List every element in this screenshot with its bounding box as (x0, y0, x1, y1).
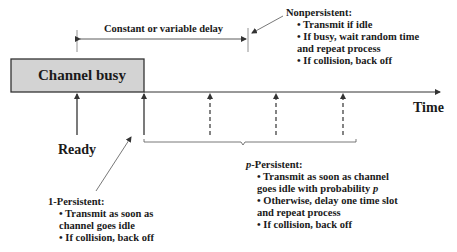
nonpersistent-item: • Transmit if idle (296, 19, 419, 31)
p-persistent-block: p-Persistent: • Transmit as soon as chan… (246, 159, 398, 231)
nonpersistent-item: • If busy, wait random time (296, 31, 419, 43)
nonpersistent-block: Nonpersistent: • Transmit if idle • If b… (286, 7, 419, 67)
p-persistent-item: • Transmit as soon as channel (256, 171, 398, 183)
nonpersistent-title: Nonpersistent: (286, 7, 419, 19)
p-persistent-item: • Otherwise, delay one time slot (256, 195, 398, 207)
one-persistent-item: channel goes idle (58, 220, 154, 232)
p-persistent-item: goes idle with probability p (256, 183, 398, 195)
p-persistent-item: and repeat process (256, 207, 398, 219)
ready-label: Ready (58, 143, 96, 157)
nonpersistent-pointer (252, 16, 283, 33)
p-persistent-brace (144, 139, 356, 145)
one-persistent-item: • If collision, back off (58, 232, 154, 244)
p-persistent-title: p-Persistent: (246, 159, 398, 171)
one-persistent-title: 1-Persistent: (48, 196, 154, 208)
one-persistent-item: • Transmit as soon as (58, 208, 154, 220)
nonpersistent-item: and repeat process (296, 43, 419, 55)
one-persistent-pointer (96, 137, 131, 191)
time-label: Time (413, 101, 444, 115)
channel-busy-label: Channel busy (38, 68, 126, 83)
one-persistent-block: 1-Persistent: • Transmit as soon as chan… (48, 196, 154, 244)
nonpersistent-item: • If collision, back off (296, 55, 419, 67)
p-persistent-item: • If collision, back off (256, 219, 398, 231)
delay-label: Constant or variable delay (104, 24, 223, 35)
